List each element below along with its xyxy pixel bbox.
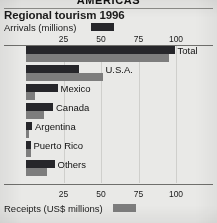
category-label: Mexico bbox=[61, 83, 91, 94]
bar-receipts bbox=[26, 92, 35, 100]
tick-label-top-50: 50 bbox=[96, 34, 105, 44]
receipts-legend-label: Receipts (US$ millions) bbox=[4, 203, 103, 214]
plot-area: TotalU.S.A.MexicoCanadaArgentinaPuerto R… bbox=[26, 46, 191, 183]
bar-row: Mexico bbox=[26, 84, 191, 103]
bar-arrivals bbox=[26, 103, 53, 111]
axis-line-bottom bbox=[4, 184, 213, 185]
tick-label-top-25: 25 bbox=[59, 34, 68, 44]
tourism-chart-figure: AMERICAS Regional tourism 1996 Arrivals … bbox=[0, 0, 217, 223]
category-label: U.S.A. bbox=[106, 64, 133, 75]
category-label: Puerto Rico bbox=[34, 140, 84, 151]
arrivals-legend-label: Arrivals (millions) bbox=[4, 22, 76, 33]
bar-row: Others bbox=[26, 160, 191, 179]
bar-receipts bbox=[26, 73, 103, 81]
tick-label-top-75: 75 bbox=[134, 34, 143, 44]
receipts-legend-swatch bbox=[113, 204, 136, 212]
bar-receipts bbox=[26, 111, 44, 119]
bar-receipts bbox=[26, 54, 169, 62]
axis-ticks-top: 255075100 bbox=[0, 34, 217, 45]
section-banner: AMERICAS bbox=[0, 0, 217, 7]
tick-label-bottom-50: 50 bbox=[96, 189, 105, 199]
tick-label-top-100: 100 bbox=[169, 34, 183, 44]
bar-row: Argentina bbox=[26, 122, 191, 141]
section-banner-label: AMERICAS bbox=[77, 0, 140, 6]
bar-row: Puerto Rico bbox=[26, 141, 191, 160]
category-label: Others bbox=[58, 159, 87, 170]
bar-arrivals bbox=[26, 46, 175, 54]
category-label: Argentina bbox=[35, 121, 76, 132]
axis-ticks-bottom: 255075100 bbox=[0, 189, 217, 200]
tick-label-bottom-100: 100 bbox=[169, 189, 183, 199]
bar-row: U.S.A. bbox=[26, 65, 191, 84]
bar-arrivals bbox=[26, 84, 58, 92]
bar-arrivals bbox=[26, 160, 55, 168]
tick-label-bottom-25: 25 bbox=[59, 189, 68, 199]
bar-receipts bbox=[26, 168, 47, 176]
arrivals-legend-swatch bbox=[91, 23, 114, 31]
bar-arrivals bbox=[26, 65, 79, 73]
bar-arrivals bbox=[26, 141, 31, 149]
bar-row: Canada bbox=[26, 103, 191, 122]
bar-receipts bbox=[26, 130, 29, 138]
bar-arrivals bbox=[26, 122, 32, 130]
tick-label-bottom-75: 75 bbox=[134, 189, 143, 199]
category-label: Canada bbox=[56, 102, 89, 113]
page-title: Regional tourism 1996 bbox=[4, 9, 125, 21]
bar-receipts bbox=[26, 149, 31, 157]
bar-row: Total bbox=[26, 46, 191, 65]
category-label: Total bbox=[178, 45, 198, 56]
